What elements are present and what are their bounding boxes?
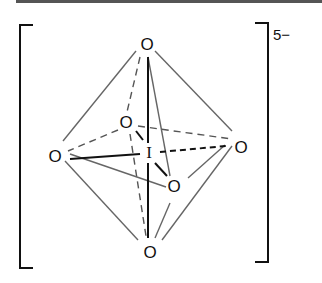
- edge-top-back: [127, 57, 140, 112]
- bond-I-right: [160, 146, 226, 152]
- edge-back-bottom: [130, 134, 146, 236]
- oxygen-front: O: [167, 177, 180, 196]
- bond-I-left: [70, 154, 140, 159]
- iodine-center: I: [146, 143, 152, 162]
- bond-I-back: [136, 131, 143, 140]
- oxygen-bottom: O: [143, 243, 156, 262]
- edge-left-bottom: [65, 161, 138, 240]
- edge-top-right: [155, 51, 232, 131]
- oxygen-left: O: [48, 147, 61, 166]
- edge-back-right: [138, 126, 232, 139]
- oxygen-right: O: [234, 138, 247, 157]
- ion-charge: 5−: [273, 26, 290, 43]
- bond-I-front: [155, 163, 167, 176]
- right-bracket: [255, 23, 268, 262]
- edge-back-left: [68, 130, 118, 151]
- oxygen-back: O: [119, 113, 132, 132]
- periodate-octahedron-diagram: O O O O O O I 5−: [0, 0, 322, 283]
- left-bracket: [20, 25, 33, 268]
- oxygen-top: O: [140, 35, 153, 54]
